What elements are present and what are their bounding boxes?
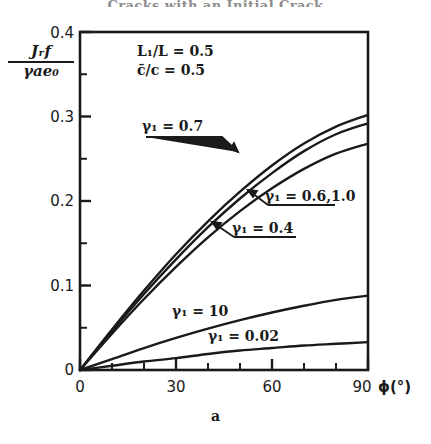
curve-0-6-1-0 [80,123,368,370]
curve-0-4 [80,144,368,370]
figure-panel-a: Cracks with an Initial Crack Jᵣf γae₀ 0.… [0,0,431,444]
plot-area [0,0,431,444]
curve-0-7 [80,115,368,370]
data-curves [80,115,368,370]
panel-caption: a [0,408,431,424]
curve-10 [80,296,368,370]
leader-lines [146,137,335,237]
